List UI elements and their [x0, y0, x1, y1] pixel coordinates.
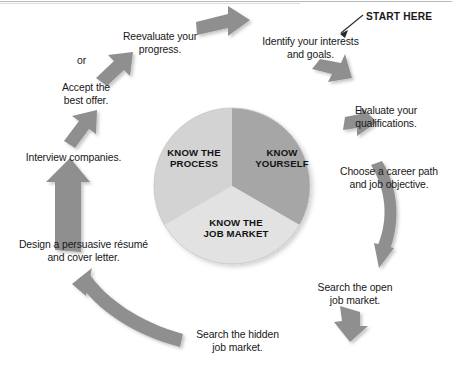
step-label-reevaluate-line1: Reevaluate your: [123, 31, 197, 42]
step-label-accept-offer-line2: best offer.: [64, 95, 108, 106]
pie-label-know-the-process-line1: KNOW THE: [167, 147, 220, 158]
start-here-label: START HERE: [366, 11, 432, 22]
step-label-evaluate: Evaluate your qualifications.: [331, 105, 441, 130]
pie-label-know-the-job-market-line2: JOB MARKET: [204, 228, 269, 239]
arrow-to-accept-offer: [64, 110, 97, 148]
step-label-identify-line1: Identify your interests: [262, 36, 358, 47]
step-label-search-hidden: Search the hidden job market.: [180, 329, 295, 354]
step-label-choose-career-line2: and job objective.: [349, 179, 428, 190]
step-label-design-resume: Design a persuasive résumé and cover let…: [2, 239, 165, 264]
step-label-search-open-line1: Search the open: [318, 282, 393, 293]
arrow-to-interview: [46, 158, 90, 252]
step-label-evaluate-line1: Evaluate your: [355, 105, 417, 116]
pie-label-know-yourself-line1: KNOW: [267, 147, 298, 158]
step-label-search-hidden-line1: Search the hidden: [196, 329, 279, 340]
pie-label-know-the-process: KNOW THE PROCESS: [156, 147, 232, 170]
diagram-canvas: KNOW YOURSELF KNOW THE JOB MARKET KNOW T…: [0, 0, 452, 373]
step-label-reevaluate: Reevaluate your progress.: [108, 31, 212, 56]
pie-label-know-the-job-market-line1: KNOW THE: [209, 217, 262, 228]
step-label-evaluate-line2: qualifications.: [355, 118, 416, 129]
step-label-search-open-line2: job market.: [330, 295, 380, 306]
step-label-choose-career-line1: Choose a career path: [340, 166, 438, 177]
pie-label-know-yourself-line2: YOURSELF: [255, 158, 308, 169]
arrow-to-reevaluate: [96, 52, 133, 86]
step-label-accept-offer-line1: Accept the: [62, 82, 110, 93]
step-label-identify-line2: and goals.: [287, 49, 334, 60]
step-label-accept-offer: Accept the best offer.: [45, 82, 127, 107]
pie-label-know-yourself: KNOW YOURSELF: [244, 147, 320, 170]
step-label-reevaluate-line2: progress.: [139, 44, 181, 55]
step-label-design-resume-line1: Design a persuasive résumé: [19, 239, 148, 250]
step-label-identify: Identify your interests and goals.: [248, 36, 373, 61]
step-label-interview: Interview companies.: [11, 152, 136, 165]
step-label-design-resume-line2: and cover letter.: [47, 252, 119, 263]
arrow-to-design-resume: [72, 268, 183, 347]
step-label-search-hidden-line2: job market.: [212, 342, 262, 353]
step-label-choose-career: Choose a career path and job objective.: [326, 166, 452, 191]
pie-label-know-the-job-market: KNOW THE JOB MARKET: [191, 217, 281, 240]
step-label-interview-line1: Interview companies.: [26, 152, 122, 163]
pie-chart: [154, 108, 310, 264]
step-label-search-open: Search the open job market.: [300, 282, 410, 307]
pie-label-know-the-process-line2: PROCESS: [170, 158, 218, 169]
or-label: or: [77, 55, 86, 66]
start-here-pointer: [340, 15, 363, 38]
arrow-to-search-hidden: [334, 306, 368, 342]
